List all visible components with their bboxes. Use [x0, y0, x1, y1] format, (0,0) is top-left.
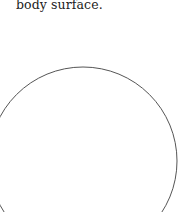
body-outline-circle [0, 67, 177, 212]
circle-figure [0, 0, 178, 212]
